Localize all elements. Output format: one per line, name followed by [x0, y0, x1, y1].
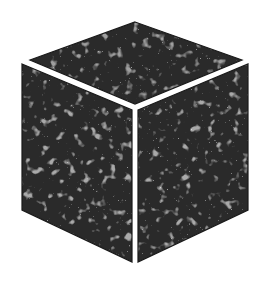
- cube-illustration: [0, 0, 270, 283]
- figure-canvas: Isometric cube rendered with dense dark …: [0, 0, 270, 283]
